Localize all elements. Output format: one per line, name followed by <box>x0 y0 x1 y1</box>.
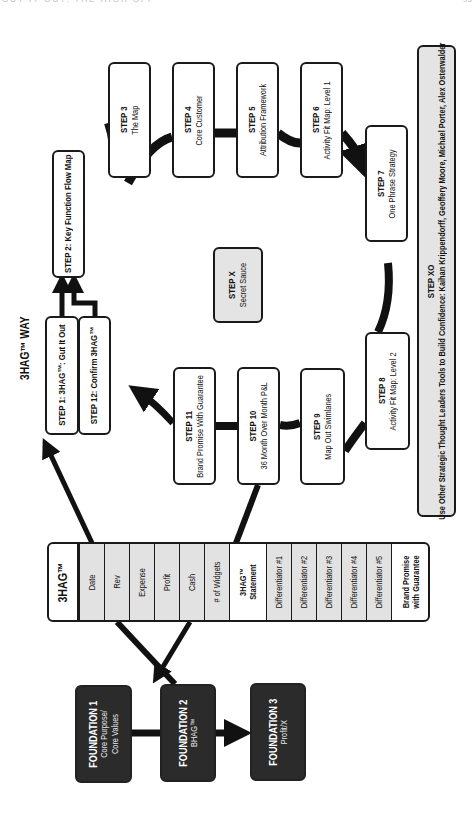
table-row-label: Date <box>87 574 97 590</box>
step-4-subtitle: Core Customer <box>194 95 204 145</box>
3hag-table: 3HAG™ Date Rev Expense Profit Cash # of … <box>47 542 430 622</box>
step-4-title: STEP 4 <box>183 107 194 134</box>
arc-step5-to-step6 <box>278 133 300 143</box>
table-row-label: Brand Promise with Guarantee <box>401 555 422 609</box>
arrow-table-to-step1 <box>47 447 92 543</box>
step-8-title: STEP 8 <box>377 378 388 405</box>
step-2-label: STEP 2: Key Function Flow Map <box>63 155 74 273</box>
arc-step7-to-step8 <box>378 263 389 332</box>
arrow-step6-to-step7 <box>342 133 362 163</box>
step-10-box: STEP 10 36 Month Over Month P&L <box>237 367 280 485</box>
step-2-box: STEP 2: Key Function Flow Map <box>52 150 85 278</box>
table-row-label: 3HAG™ Statement <box>238 557 259 606</box>
step-9-subtitle: Map Out Swimlanes <box>323 393 333 459</box>
step-6-title: STEP 6 <box>311 107 322 134</box>
table-row: Expense <box>130 544 155 620</box>
step-12-box: STEP 12: Confirm 3HAG™ <box>78 316 111 435</box>
step-6-box: STEP 6 Activity Fit Map: Level 1 <box>300 62 343 178</box>
arrow-step11-to-step1 <box>140 393 173 423</box>
step-11-title: STEP 11 <box>184 411 195 442</box>
table-row: 3HAG™ Statement <box>230 544 267 620</box>
step-xo-title: STEP XO <box>426 264 437 298</box>
table-row: Differentiator #3 <box>317 544 342 620</box>
table-row-label: Differentiator #1 <box>274 556 284 608</box>
step-xo-box: STEP XO Use Other Strategic Thought Lead… <box>417 45 456 517</box>
step-10-title: STEP 10 <box>248 410 259 441</box>
foundation-1-title: FOUNDATION 1 <box>87 701 100 768</box>
step-3-title: STEP 3 <box>119 107 130 134</box>
step-7-subtitle: One Phrase Strategy <box>387 149 397 218</box>
table-row-label: # of Widgets <box>212 561 222 602</box>
table-row: Rev <box>105 544 130 620</box>
step-11-subtitle: Brand Promise With Guarantee <box>195 375 205 478</box>
step-6-subtitle: Activity Fit Map: Level 1 <box>322 81 332 159</box>
arc-step8-to-step9 <box>345 423 365 451</box>
table-row: Profit <box>155 544 180 620</box>
foundation-1-box: FOUNDATION 1 Core Purpose/ Core Values <box>75 685 132 783</box>
arc-step9-to-step10 <box>280 423 300 426</box>
table-row: Differentiator #2 <box>292 544 317 620</box>
table-row: Differentiator #5 <box>367 544 392 620</box>
step-8-box: STEP 8 Activity Fit Map: Level 2 <box>365 332 410 450</box>
table-row: Differentiator #4 <box>342 544 367 620</box>
table-row-label: Differentiator #5 <box>374 556 384 608</box>
foundation-2-title: FOUNDATION 2 <box>177 700 190 767</box>
table-row: Brand Promise with Guarantee <box>392 544 430 620</box>
table-row-label: Differentiator #3 <box>324 556 334 608</box>
table-row-label: Differentiator #4 <box>349 556 359 608</box>
step-7-title: STEP 7 <box>376 170 387 197</box>
step-xo-subtitle: Use Other Strategic Thought Leaders Tool… <box>437 43 447 520</box>
foundation-2-box: FOUNDATION 2 BHAG™ <box>160 684 216 782</box>
3hag-table-header: 3HAG™ <box>49 544 80 620</box>
line-step10-to-table <box>236 485 258 543</box>
step-12-label: STEP 12: Confirm 3HAG™ <box>89 327 100 424</box>
step-8-subtitle: Activity Fit Map: Level 2 <box>388 352 398 430</box>
table-row: # of Widgets <box>205 544 230 620</box>
table-row: Date <box>80 544 105 620</box>
step-11-box: STEP 11 Brand Promise With Guarantee <box>173 367 216 485</box>
3hag-table-header-label: 3HAG™ <box>56 562 71 602</box>
foundation-1-subtitle: Core Purpose/ Core Values <box>99 705 120 762</box>
step-4-box: STEP 4 Core Customer <box>172 62 215 178</box>
diagram-title: 3HAG™ WAY <box>18 316 32 380</box>
step-3-box: STEP 3 The Map <box>108 62 151 178</box>
table-row-label: Differentiator #2 <box>299 556 309 608</box>
table-row-label: Cash <box>187 573 197 590</box>
step-9-title: STEP 9 <box>312 413 323 440</box>
step-5-title: STEP 5 <box>247 107 258 134</box>
foundation-3-title: FOUNDATION 3 <box>267 699 280 766</box>
table-row: Cash <box>180 544 205 620</box>
foundation-3-subtitle: Profit/X <box>279 720 289 744</box>
step-5-box: STEP 5 Attribution Framework <box>236 62 279 178</box>
foundation-2-subtitle: BHAG™ <box>189 719 199 747</box>
step-1-label: STEP 1: 3HAG™: Gut It Out <box>57 325 68 427</box>
step-x-title: STEP X <box>227 271 238 299</box>
table-row: Differentiator #1 <box>267 544 292 620</box>
arrow-step12-to-step2 <box>74 283 95 316</box>
step-7-box: STEP 7 One Phrase Strategy <box>365 125 408 242</box>
step-3-subtitle: The Map <box>130 105 140 134</box>
step-5-subtitle: Attribution Framework <box>258 84 268 156</box>
step-10-subtitle: 36 Month Over Month P&L <box>259 382 269 469</box>
arrow-table-to-foundation2 <box>158 622 190 675</box>
step-x-subtitle: Secret Sauce <box>238 263 248 307</box>
table-row-label: Rev <box>112 575 122 588</box>
table-row-label: Profit <box>162 573 172 590</box>
step-1-box: STEP 1: 3HAG™: Gut It Out <box>45 316 79 435</box>
diagram-canvas: 3HAG™ WAY STEP 1: 3HAG™: Gut It Out STEP… <box>0 0 476 823</box>
foundation-3-box: FOUNDATION 3 Profit/X <box>250 683 306 781</box>
table-row-label: Expense <box>137 568 147 597</box>
step-x-box: STEP X Secret Sauce <box>213 247 263 323</box>
line-table-to-foundation2 <box>117 622 175 684</box>
step-9-box: STEP 9 Map Out Swimlanes <box>300 368 345 485</box>
